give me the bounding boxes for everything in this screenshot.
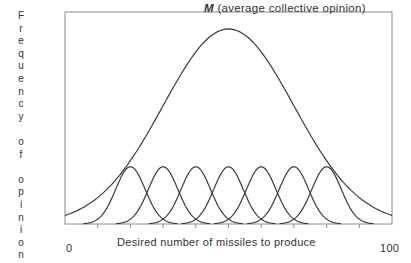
x-tick-label-min: 0 <box>66 242 72 254</box>
individual-opinion-curve <box>214 167 308 224</box>
individual-opinion-curve <box>181 167 275 224</box>
annotation-text: (average collective opinion) <box>217 2 365 14</box>
individual-opinion-curve <box>116 167 210 224</box>
individual-opinion-curve <box>149 167 243 224</box>
x-tick-label-max: 100 <box>380 242 399 254</box>
individual-opinion-curve <box>247 167 341 224</box>
collective-opinion-curve <box>65 29 392 215</box>
average-opinion-annotation: M (average collective opinion) <box>204 2 366 14</box>
individual-opinion-curve <box>83 167 177 224</box>
m-symbol: M <box>204 2 214 14</box>
x-axis-label: Desired number of missiles to produce <box>117 236 316 248</box>
plot-area <box>0 0 411 263</box>
individual-opinion-curve <box>280 167 374 224</box>
x-axis-ticks <box>98 224 360 228</box>
curves <box>65 29 392 224</box>
